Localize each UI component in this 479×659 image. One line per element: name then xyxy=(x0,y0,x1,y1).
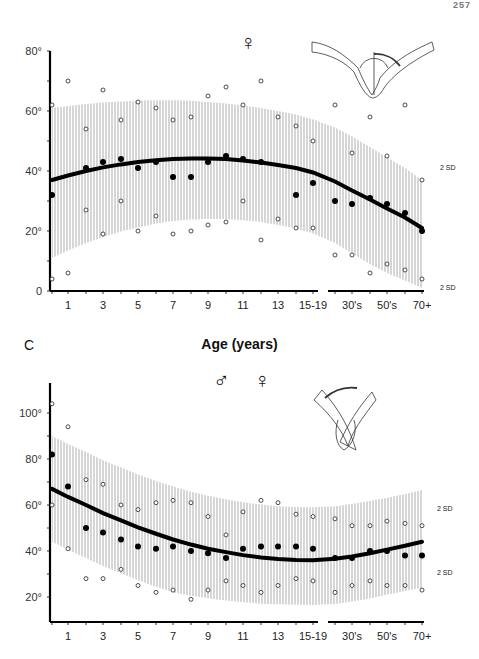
sd-point xyxy=(84,577,88,581)
sd-point xyxy=(294,577,298,581)
mean-point xyxy=(240,156,246,162)
x-tick-label: 30's xyxy=(342,299,362,311)
y-tick-label: 60° xyxy=(25,499,42,511)
y-tick-label: 40° xyxy=(25,165,42,177)
mean-point xyxy=(402,553,408,559)
sd-point xyxy=(241,199,245,203)
sd-point xyxy=(420,277,424,281)
mean-point xyxy=(170,174,176,180)
sd-point xyxy=(136,508,140,512)
y-tick-label: 20° xyxy=(25,225,42,237)
charts-canvas: 020°40°60°80°13579111315-1930's50's70+ 2… xyxy=(0,0,479,659)
x-tick-label: 7 xyxy=(170,630,176,642)
sd-point xyxy=(420,178,424,182)
sd-band xyxy=(52,100,422,288)
y-tick-label: 100° xyxy=(19,407,42,419)
mean-point xyxy=(275,543,281,549)
x-tick-label: 15-19 xyxy=(299,630,327,642)
sd-point xyxy=(241,584,245,588)
mean-point xyxy=(258,159,264,165)
sd-point xyxy=(154,106,158,110)
sd-point xyxy=(136,584,140,588)
mean-point xyxy=(310,180,316,186)
sd-point xyxy=(311,139,315,143)
x-tick-label: 11 xyxy=(237,630,248,642)
mean-point xyxy=(367,195,373,201)
sd-point xyxy=(276,115,280,119)
sd-point xyxy=(224,220,228,224)
sd-point xyxy=(84,208,88,212)
sd-point xyxy=(66,271,70,275)
x-tick-label: 5 xyxy=(135,299,141,311)
sd-point xyxy=(206,223,210,227)
sd-point xyxy=(420,588,424,592)
sd-point xyxy=(333,103,337,107)
mean-point xyxy=(100,530,106,536)
sd-point xyxy=(50,103,54,107)
x-tick-label: 30's xyxy=(342,630,362,642)
mean-point xyxy=(188,174,194,180)
sd-point xyxy=(276,217,280,221)
mean-point xyxy=(384,548,390,554)
sd-point xyxy=(154,501,158,505)
mean-point xyxy=(349,555,355,561)
x-tick-label: 9 xyxy=(205,630,211,642)
sd-point xyxy=(350,253,354,257)
sd-point xyxy=(241,510,245,514)
sd-point xyxy=(350,584,354,588)
x-tick-label: 3 xyxy=(100,299,106,311)
mean-point xyxy=(153,159,159,165)
y-tick-label: 40° xyxy=(25,545,42,557)
sd-point xyxy=(101,577,105,581)
sd-point xyxy=(154,590,158,594)
mean-point xyxy=(419,553,425,559)
sd-label-lower: 2 SD xyxy=(437,569,453,576)
sd-point xyxy=(385,519,389,523)
sd-point xyxy=(136,229,140,233)
mean-point xyxy=(332,198,338,204)
sd-point xyxy=(119,118,123,122)
arm-illustration-icon xyxy=(314,388,376,450)
sd-point xyxy=(224,85,228,89)
sd-point xyxy=(101,88,105,92)
mean-point xyxy=(118,537,124,543)
x-tick-label: 3 xyxy=(100,630,106,642)
sd-point xyxy=(276,584,280,588)
sd-point xyxy=(171,588,175,592)
sd-point xyxy=(403,584,407,588)
mean-point xyxy=(384,201,390,207)
sd-point xyxy=(66,425,70,429)
mean-point xyxy=(135,543,141,549)
mean-point xyxy=(332,555,338,561)
mean-point xyxy=(310,546,316,552)
sd-point xyxy=(224,533,228,537)
sd-point xyxy=(385,154,389,158)
sd-point xyxy=(224,579,228,583)
sd-point xyxy=(385,584,389,588)
sd-point xyxy=(189,597,193,601)
mean-point xyxy=(349,201,355,207)
mean-point xyxy=(100,159,106,165)
sd-point xyxy=(259,79,263,83)
sd-point xyxy=(84,127,88,131)
arm-illustration-icon xyxy=(312,42,434,98)
sd-point xyxy=(311,515,315,519)
mean-point xyxy=(49,192,55,198)
sd-point xyxy=(171,118,175,122)
y-tick-label: 80° xyxy=(25,453,42,465)
sd-point xyxy=(311,579,315,583)
sd-point xyxy=(333,517,337,521)
sd-point xyxy=(154,214,158,218)
sd-point xyxy=(50,277,54,281)
sd-point xyxy=(206,94,210,98)
mean-point xyxy=(223,153,229,159)
sd-point xyxy=(294,226,298,230)
sd-point xyxy=(189,229,193,233)
chart-male-female: 20°40°60°80°100°13579111315-1930's50's70… xyxy=(19,383,452,642)
sd-point xyxy=(403,268,407,272)
sd-point xyxy=(206,588,210,592)
sd-point xyxy=(403,521,407,525)
x-tick-label: 5 xyxy=(135,630,141,642)
mean-point xyxy=(223,555,229,561)
mean-point xyxy=(293,543,299,549)
